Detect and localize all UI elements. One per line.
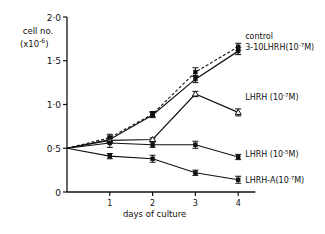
x-axis-title: days of culture xyxy=(123,209,186,219)
y-tick-label: 1·5 xyxy=(47,56,61,66)
y-tick-label: 0 xyxy=(55,188,61,198)
x-tick-label: 2 xyxy=(150,199,155,208)
data-point xyxy=(193,143,197,147)
line-chart: 00·51·01·52·01234 days of culturecell no… xyxy=(0,0,325,234)
data-point xyxy=(150,157,154,161)
series-group xyxy=(67,43,241,183)
series-1 xyxy=(67,48,241,149)
x-tick-label: 3 xyxy=(193,199,198,208)
series-label-1: 3-10LHRH(10-7M) xyxy=(245,42,314,52)
data-point xyxy=(236,49,240,53)
series-0 xyxy=(67,43,241,148)
series-line xyxy=(67,148,238,180)
data-point xyxy=(108,141,112,145)
data-point xyxy=(150,113,154,117)
series-4 xyxy=(67,148,241,183)
axes: 00·51·01·52·01234 xyxy=(47,13,256,209)
data-point xyxy=(236,178,240,182)
labels: days of culturecell no.(x10-6)control3-1… xyxy=(20,26,314,219)
x-tick-label: 1 xyxy=(107,199,112,208)
y-tick-label: 2·0 xyxy=(47,13,62,23)
y-axis-title-line2: (x10-6) xyxy=(20,37,48,49)
series-label-0: control xyxy=(245,32,273,41)
data-point xyxy=(236,155,240,159)
series-line xyxy=(67,47,238,149)
y-axis-title-line1: cell no. xyxy=(23,26,53,36)
data-point xyxy=(193,171,197,175)
data-point xyxy=(193,77,197,81)
data-point xyxy=(108,154,112,158)
y-tick-label: 0·5 xyxy=(47,144,61,154)
series-label-2: LHRH (10-7M) xyxy=(245,92,298,102)
y-tick-label: 1·0 xyxy=(47,100,62,110)
series-line xyxy=(67,51,238,148)
data-point xyxy=(150,143,154,147)
series-label-4: LHRH-A(10-7M) xyxy=(245,175,304,185)
data-point xyxy=(193,70,197,74)
series-label-3: LHRH (10-5M) xyxy=(245,149,298,159)
series-2 xyxy=(67,91,241,148)
x-tick-label: 4 xyxy=(236,199,241,208)
